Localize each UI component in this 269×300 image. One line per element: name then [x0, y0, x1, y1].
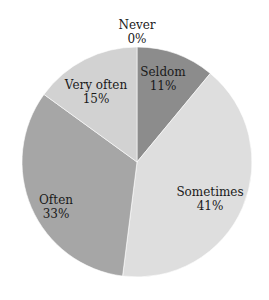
label-often-name: Often: [39, 193, 73, 207]
label-sometimes-pct: 41%: [176, 199, 243, 213]
label-never-name: Never: [118, 18, 155, 32]
label-very-often-pct: 15%: [65, 92, 127, 106]
pie-slices: [22, 47, 252, 277]
label-never: Never 0%: [118, 18, 155, 46]
label-very-often: Very often 15%: [65, 78, 127, 106]
label-sometimes: Sometimes 41%: [176, 185, 243, 213]
label-seldom: Seldom 11%: [140, 65, 185, 93]
label-never-pct: 0%: [118, 32, 155, 46]
label-seldom-name: Seldom: [140, 65, 185, 79]
label-very-often-name: Very often: [65, 78, 127, 92]
label-often: Often 33%: [39, 193, 73, 221]
label-seldom-pct: 11%: [140, 79, 185, 93]
label-sometimes-name: Sometimes: [176, 185, 243, 199]
label-often-pct: 33%: [39, 207, 73, 221]
